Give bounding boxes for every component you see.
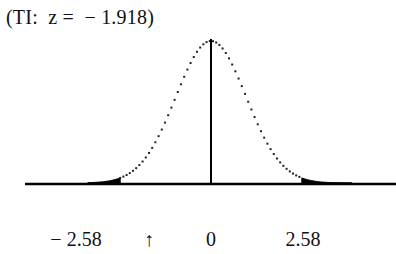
curve-dot xyxy=(260,130,262,132)
curve-dot xyxy=(238,78,240,80)
curve-dot xyxy=(206,41,208,43)
left-rejection-region xyxy=(88,178,120,183)
curve-dot xyxy=(263,137,265,139)
right-rejection-region xyxy=(302,178,352,183)
curve-dot xyxy=(212,40,214,42)
curve-dot xyxy=(254,116,256,118)
curve-dot xyxy=(193,56,195,58)
curve-dot xyxy=(126,174,128,176)
curve-dot xyxy=(257,123,259,125)
curve-dot xyxy=(158,135,160,137)
curve-dot xyxy=(234,70,236,72)
curve-dot xyxy=(142,161,144,163)
test-statistic-arrow: ↑ xyxy=(144,228,154,251)
tick-label: 2.58 xyxy=(286,228,321,251)
curve-dot xyxy=(231,64,233,66)
curve-dot xyxy=(154,141,156,143)
curve-dot xyxy=(250,108,252,110)
curve-dot xyxy=(241,85,243,87)
curve-dot xyxy=(270,148,272,150)
curve-dot xyxy=(135,167,137,169)
curve-dot xyxy=(292,173,294,175)
curve-dot xyxy=(276,157,278,159)
curve-dot xyxy=(218,44,220,46)
curve-dot xyxy=(151,147,153,149)
curve-dot xyxy=(295,174,297,176)
curve-dot xyxy=(279,161,281,163)
curve-dot xyxy=(170,107,172,109)
curve-dot xyxy=(164,122,166,124)
curve-dot xyxy=(222,47,224,49)
curve-dot xyxy=(202,43,204,45)
curve-dot xyxy=(174,99,176,101)
curve-dot xyxy=(183,76,185,78)
curve-dot xyxy=(282,165,284,167)
curve-dot xyxy=(180,83,182,85)
curve-dot xyxy=(199,47,201,49)
curve-dot xyxy=(247,101,249,103)
curve-dot xyxy=(122,176,124,178)
curve-dot xyxy=(145,156,147,158)
curve-dot xyxy=(132,170,134,172)
curve-dot xyxy=(244,93,246,95)
curve-dot xyxy=(215,42,217,44)
curve-dot xyxy=(289,170,291,172)
tick-label: − 2.58 xyxy=(50,228,101,251)
curve-dot xyxy=(196,51,198,53)
curve-dot xyxy=(161,129,163,131)
curve-dot xyxy=(286,168,288,170)
curve-dot xyxy=(298,176,300,178)
curve-dot xyxy=(119,177,121,179)
curve-dot xyxy=(138,164,140,166)
curve-dot xyxy=(148,152,150,154)
curve-dot xyxy=(167,114,169,116)
curve-dot xyxy=(273,153,275,155)
curve-dot xyxy=(228,57,230,59)
curve-dot xyxy=(177,91,179,93)
curve-dot xyxy=(129,172,131,174)
curve-dot xyxy=(266,143,268,145)
curve-dot xyxy=(190,62,192,64)
normal-curve-plot xyxy=(0,0,396,254)
curve-dot xyxy=(186,69,188,71)
tick-label: 0 xyxy=(206,228,216,251)
curve-dot xyxy=(225,52,227,54)
